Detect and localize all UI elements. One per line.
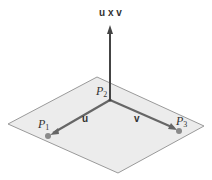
point-p2-label: P2: [96, 85, 107, 99]
point-p2-dot: [109, 99, 112, 102]
vector-u-label: u: [82, 114, 88, 124]
point-p3-label: P3: [176, 115, 187, 129]
vector-v-label: v: [134, 114, 140, 124]
normal-vector-label: u x v: [99, 8, 122, 18]
point-p1-dot: [45, 133, 51, 139]
cross-product-diagram: u x v u v P1 P2 P3: [0, 0, 212, 180]
normal-vector-arrowhead: [107, 25, 113, 34]
point-p1-label: P1: [38, 118, 49, 132]
